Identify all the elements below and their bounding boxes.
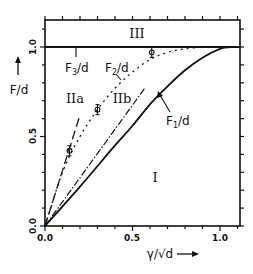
region-label-IIb: IIb [113, 91, 132, 106]
x-tick-label-0-5: 0.5 [124, 233, 140, 243]
x-axis-arrow-icon [177, 251, 199, 257]
region-label-IIa: IIa [66, 91, 84, 106]
y-tick-label-0: 0.0 [28, 218, 38, 234]
y-tick-label-1: 1.0 [28, 39, 38, 55]
y-axis-label: F/d [10, 83, 29, 97]
x-tick-label-0: 0.0 [37, 233, 53, 243]
curve-label-f1: F1/d [166, 114, 190, 130]
curve-label-f2: F2/d [105, 61, 129, 77]
f1-label-pointer [157, 91, 170, 112]
region-label-I: I [152, 170, 157, 185]
data-point-marker [149, 47, 154, 57]
x-tick-label-1: 1.0 [212, 233, 228, 243]
x-axis-label: γ/√d [147, 247, 173, 261]
phase-diagram-chart: 0.0 0.5 1.0 0.0 0.5 1.0 F/d γ/√d III IIa… [0, 0, 253, 274]
x-axis-ticks [45, 16, 238, 231]
data-point-marker [95, 105, 100, 115]
y-axis-arrow-icon [15, 56, 21, 75]
region-label-III: III [129, 26, 144, 41]
plot-frame [45, 20, 240, 226]
curve-label-f3: F3/d [65, 61, 89, 77]
data-point-marker [67, 146, 72, 156]
curve-initial-slope-steep [45, 115, 80, 226]
y-tick-label-0-5: 0.5 [28, 128, 38, 144]
